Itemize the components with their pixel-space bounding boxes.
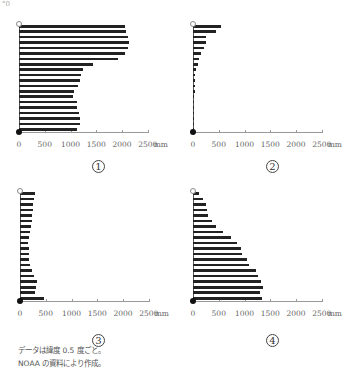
x-tick-label: 500	[212, 140, 226, 149]
bar	[20, 225, 31, 228]
x-axis-unit: mm	[328, 309, 342, 318]
x-axis-unit: mm	[328, 140, 342, 149]
bar	[193, 214, 208, 217]
x-tick	[149, 299, 150, 302]
bar	[193, 106, 194, 109]
bar	[193, 85, 195, 88]
x-axis	[20, 301, 149, 302]
bar	[193, 220, 212, 223]
bar	[20, 203, 33, 206]
bar	[20, 275, 34, 278]
bar	[193, 209, 207, 212]
bar	[193, 79, 195, 82]
x-tick	[296, 130, 297, 133]
x-tick	[270, 130, 271, 133]
bar	[193, 198, 203, 201]
bar	[193, 95, 194, 98]
bar	[193, 112, 194, 115]
bar	[193, 63, 198, 66]
bar	[193, 291, 260, 294]
x-axis	[193, 301, 322, 302]
bar	[193, 117, 194, 120]
bar	[193, 68, 196, 71]
bar	[193, 258, 247, 261]
bar	[193, 297, 262, 300]
note-resolution: データは緯度 0.5 度ごと。	[18, 344, 105, 355]
bottom-marker	[190, 298, 196, 304]
chart-4: 05001000150020002500mm4	[0, 0, 180, 180]
y-axis	[193, 191, 194, 301]
bar	[20, 291, 35, 294]
bar	[193, 253, 242, 256]
x-tick	[322, 299, 323, 302]
bar	[20, 247, 29, 250]
x-tick-label: 500	[212, 309, 226, 318]
x-axis-unit: mm	[155, 309, 169, 318]
x-tick-label: 0	[191, 140, 196, 149]
bar	[193, 30, 216, 33]
bar	[193, 231, 223, 234]
bar	[193, 275, 258, 278]
bar	[193, 41, 206, 44]
x-axis	[193, 132, 322, 133]
x-tick-label: 1000	[235, 140, 254, 149]
bar	[193, 58, 199, 61]
bar	[20, 253, 29, 256]
x-tick	[97, 299, 98, 302]
x-tick-label: 0	[18, 309, 23, 318]
bar	[20, 264, 30, 267]
bar	[20, 214, 32, 217]
bar	[193, 25, 221, 28]
chart-number: 2	[266, 160, 279, 173]
bar	[20, 209, 33, 212]
x-tick-label: 2000	[286, 140, 305, 149]
bar	[20, 269, 32, 272]
top-marker	[190, 188, 196, 194]
bar	[193, 225, 216, 228]
bar	[20, 231, 30, 234]
x-tick-label: 1500	[261, 309, 280, 318]
bar	[193, 52, 201, 55]
bottom-marker	[17, 298, 23, 304]
x-tick-label: 1500	[88, 309, 107, 318]
bar	[193, 280, 261, 283]
bar	[193, 101, 194, 104]
note-source: NOAA の資料により作成。	[18, 357, 105, 368]
x-tick-label: 500	[39, 309, 53, 318]
x-tick	[72, 299, 73, 302]
bar	[20, 220, 32, 223]
x-tick-label: 1500	[261, 140, 280, 149]
bar	[193, 269, 256, 272]
x-tick-label: 2000	[113, 309, 132, 318]
bar	[193, 242, 237, 245]
bar	[20, 297, 44, 300]
bar	[193, 90, 195, 93]
bottom-marker	[190, 129, 196, 135]
x-tick-label: 2000	[286, 309, 305, 318]
x-tick	[46, 299, 47, 302]
x-tick	[296, 299, 297, 302]
bar	[20, 258, 29, 261]
bar	[193, 264, 249, 267]
x-tick-label: 0	[191, 309, 196, 318]
bar	[193, 286, 263, 289]
bar	[20, 236, 29, 239]
x-tick	[219, 130, 220, 133]
x-tick-label: 1000	[62, 309, 81, 318]
x-tick	[270, 299, 271, 302]
bar	[193, 47, 204, 50]
top-marker	[17, 188, 23, 194]
x-tick-label: 1000	[235, 309, 254, 318]
x-tick	[123, 299, 124, 302]
bar	[193, 203, 206, 206]
bar	[193, 36, 206, 39]
bar	[20, 280, 37, 283]
x-tick	[322, 130, 323, 133]
top-marker	[190, 21, 196, 27]
bar	[20, 198, 34, 201]
x-tick	[245, 130, 246, 133]
y-axis	[193, 24, 194, 132]
bar	[20, 242, 28, 245]
bar	[20, 286, 36, 289]
chart-number: 4	[266, 334, 279, 347]
